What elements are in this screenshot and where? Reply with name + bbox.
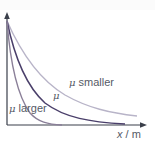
y-axis-arrow-icon (4, 12, 10, 19)
mu-symbol: μ (53, 90, 60, 101)
mu-symbol: μ (69, 77, 76, 88)
label-mu: μ (53, 90, 60, 101)
label-mu-larger: μ larger (9, 103, 47, 114)
label-mu-smaller: μ smaller (69, 77, 114, 88)
decay-curves-diagram (0, 0, 155, 142)
label-smaller-text: smaller (79, 76, 114, 88)
x-axis-separator: / (123, 128, 132, 140)
x-axis-arrow-icon (140, 122, 147, 128)
x-axis-unit: m (132, 128, 141, 140)
x-axis-label: x / m (117, 129, 141, 140)
mu-symbol: μ (9, 103, 16, 114)
label-larger-text: larger (19, 102, 47, 114)
